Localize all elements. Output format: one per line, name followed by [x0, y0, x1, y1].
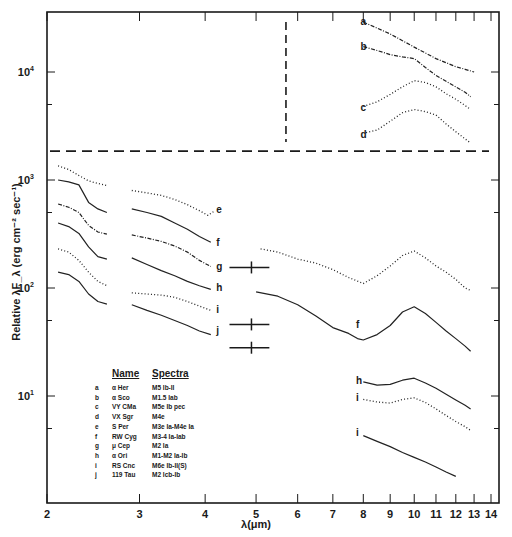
x-tick-label: 13	[468, 508, 480, 520]
legend-star-name: α Ori	[112, 452, 127, 459]
x-tick-label: 10	[408, 508, 420, 520]
curve-i	[363, 398, 470, 431]
curve-a	[363, 22, 474, 72]
curve-label-f: f	[356, 319, 360, 330]
x-tick-label: 8	[360, 508, 366, 520]
curve-c	[363, 81, 470, 110]
curve-label-b: b	[360, 41, 366, 52]
legend-spectral-type: M3-4 Ia-Iab	[152, 433, 186, 440]
curve-h	[363, 378, 470, 409]
legend-key: a	[95, 384, 99, 391]
legend-spectral-type: M1-M2 Ia-Ib	[152, 452, 187, 459]
curve-j	[58, 272, 107, 304]
legend-key: j	[94, 471, 97, 479]
legend-key: e	[95, 423, 99, 430]
curve-i	[58, 249, 107, 286]
curve-g	[58, 204, 107, 234]
legend-star-name: α Sco	[112, 394, 130, 401]
curve-b	[363, 47, 470, 97]
x-axis-title: λ(μm)	[241, 518, 271, 530]
curve-e	[261, 249, 471, 291]
curve-label-g: g	[216, 261, 222, 272]
x-tick-label: 12	[450, 508, 462, 520]
curve-j	[363, 436, 456, 477]
x-tick-label: 3	[136, 508, 142, 520]
legend-key: c	[95, 403, 99, 410]
curve-d	[366, 110, 471, 144]
x-tick-label: 2	[44, 508, 50, 520]
curve-h	[132, 258, 211, 290]
curve-label-i: i	[356, 427, 359, 438]
curve-h	[58, 223, 107, 259]
legend-spectral-type: M4e	[152, 413, 165, 420]
y-axis-ticks: 101102103104	[18, 65, 499, 429]
legend-star-name: 119 Tau	[112, 471, 135, 478]
legend-spectral-type: M3e Ia-M4e Ia	[152, 423, 194, 430]
curve-g	[132, 235, 211, 267]
curve-f	[132, 209, 211, 242]
legend-spectral-type: M2 Icb-Ib	[152, 471, 180, 478]
legend-key: f	[95, 433, 98, 440]
curve-e	[58, 166, 107, 186]
legend-star-name: VY CMa	[112, 403, 136, 410]
curve-label-d: d	[360, 129, 366, 140]
legend-key: b	[95, 394, 99, 401]
error-bars	[229, 261, 269, 353]
curve-label-e: e	[216, 204, 222, 215]
curve-label-i: i	[216, 304, 219, 315]
curve-labels: abcdefghijfhii	[215, 16, 366, 438]
y-axis-title: Relative λF_λ (erg cm⁻² sec⁻¹)	[10, 183, 22, 341]
x-tick-label: 9	[387, 508, 393, 520]
dashed-separators	[50, 22, 489, 151]
legend-key: g	[95, 442, 99, 450]
curve-label-i: i	[356, 392, 359, 403]
curve-label-h: h	[356, 375, 362, 386]
x-tick-label: 4	[202, 508, 209, 520]
spectral-energy-chart: 234567891011121314 101102103104 abcdefgh…	[0, 0, 512, 537]
legend-table: NameSpectraaα HerM5 Ib-IIbα ScoM1.5 Iabc…	[94, 368, 194, 479]
legend-star-name: RW Cyg	[112, 433, 137, 441]
legend-header-spectra: Spectra	[152, 368, 189, 379]
x-tick-label: 14	[485, 508, 498, 520]
y-tick-label: 101	[18, 389, 34, 402]
curve-label-j: j	[215, 325, 219, 336]
legend-spectral-type: M5e Ib pec	[152, 403, 186, 411]
legend-star-name: RS Cnc	[112, 462, 136, 469]
curve-f	[58, 180, 107, 213]
legend-key: i	[95, 462, 97, 469]
y-tick-label: 104	[18, 65, 34, 78]
x-tick-label: 7	[330, 508, 336, 520]
legend-star-name: S Per	[112, 423, 129, 430]
legend-header-name: Name	[112, 368, 140, 379]
legend-star-name: VX Sgr	[112, 413, 134, 421]
legend-spectral-type: M6e Ib-II(S)	[152, 462, 187, 470]
legend-spectral-type: M5 Ib-II	[152, 384, 175, 391]
legend-spectral-type: M2 Ia	[152, 442, 169, 449]
curve-label-a: a	[360, 16, 366, 27]
legend-star-name: α Her	[112, 384, 129, 391]
curve-i	[132, 293, 211, 311]
legend-star-name: μ Cep	[112, 442, 130, 450]
curve-label-h: h	[216, 282, 222, 293]
curve-label-f: f	[216, 237, 220, 248]
legend-key: h	[95, 452, 99, 459]
curve-j	[132, 305, 211, 335]
curve-f	[256, 292, 471, 351]
curve-label-c: c	[360, 102, 366, 113]
legend-spectral-type: M1.5 Iab	[152, 394, 178, 401]
x-tick-label: 6	[295, 508, 301, 520]
legend-key: d	[95, 413, 99, 420]
x-tick-label: 11	[430, 508, 442, 520]
